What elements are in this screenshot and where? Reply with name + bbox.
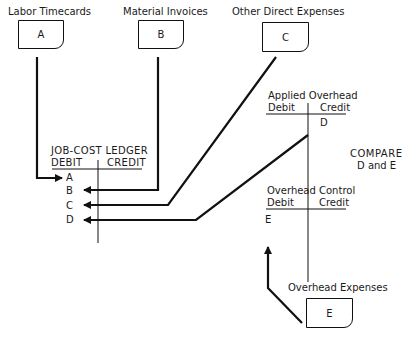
ledger-entry-d: D bbox=[66, 214, 74, 226]
doc-letter-e: E bbox=[326, 308, 332, 319]
compare-subject: D and E bbox=[357, 160, 396, 172]
arrow-c bbox=[84, 57, 276, 205]
applied-overhead-debit: Debit bbox=[268, 102, 295, 114]
other-direct-expenses-doc: C bbox=[262, 22, 309, 52]
applied-overhead-credit: Credit bbox=[320, 102, 350, 114]
job-cost-ledger-title: JOB-COST LEDGER bbox=[51, 145, 148, 157]
compare-label: COMPARE bbox=[350, 148, 402, 160]
arrow-b bbox=[84, 57, 158, 190]
overhead-expenses-doc: E bbox=[306, 298, 353, 328]
doc-letter-c: C bbox=[282, 32, 289, 43]
overhead-control-credit: Credit bbox=[319, 197, 349, 209]
doc-letter-b: B bbox=[158, 29, 165, 40]
job-cost-ledger-credit: CREDIT bbox=[107, 157, 146, 169]
job-cost-ledger-debit: DEBIT bbox=[51, 157, 82, 169]
ledger-entry-c: C bbox=[66, 200, 73, 212]
overhead-control-debit: Debit bbox=[267, 197, 294, 209]
labor-timecards-label: Labor Timecards bbox=[8, 6, 91, 18]
ledger-entry-b: B bbox=[66, 185, 73, 197]
other-direct-expenses-label: Other Direct Expenses bbox=[232, 6, 344, 18]
applied-overhead-entry-d: D bbox=[320, 117, 328, 129]
overhead-control-entry-e: E bbox=[265, 214, 271, 226]
ledger-entry-a: A bbox=[66, 172, 73, 184]
material-invoices-doc: B bbox=[138, 20, 184, 49]
applied-overhead-title: Applied Overhead bbox=[268, 90, 358, 102]
doc-letter-a: A bbox=[38, 29, 45, 40]
material-invoices-label: Material Invoices bbox=[123, 6, 208, 18]
overhead-expenses-label: Overhead Expenses bbox=[288, 282, 388, 294]
overhead-control-title: Overhead Control bbox=[267, 185, 355, 197]
labor-timecards-doc: A bbox=[18, 20, 64, 49]
